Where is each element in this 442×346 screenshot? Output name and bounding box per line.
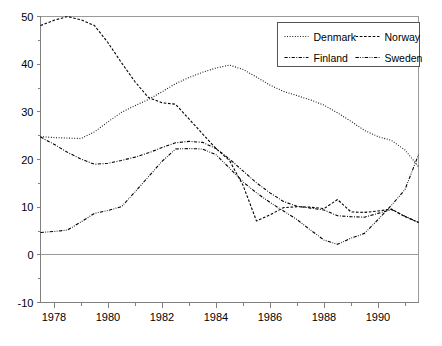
x-tick-label: 1984 [204, 311, 228, 323]
x-tick-label: 1990 [366, 311, 390, 323]
legend-label-norway: Norway [385, 31, 421, 43]
line-chart: -100102030405019781980198219841986198819… [0, 0, 442, 346]
x-tick-label: 1978 [42, 311, 66, 323]
series-line-sweden [41, 149, 419, 245]
series-line-finland [41, 137, 419, 222]
chart-canvas: -100102030405019781980198219841986198819… [0, 0, 442, 346]
x-tick-label: 1986 [258, 311, 282, 323]
legend-label-finland: Finland [314, 52, 349, 64]
y-tick-label: 10 [21, 201, 33, 213]
series-line-denmark [41, 65, 419, 167]
legend-label-denmark: Denmark [314, 31, 357, 43]
y-tick-label: 0 [27, 249, 33, 261]
y-tick-label: -10 [18, 297, 34, 309]
x-tick-label: 1982 [150, 311, 174, 323]
y-tick-label: 30 [21, 106, 33, 118]
y-tick-label: 50 [21, 11, 33, 23]
y-tick-label: 40 [21, 58, 33, 70]
y-tick-label: 20 [21, 154, 33, 166]
x-tick-label: 1980 [96, 311, 120, 323]
legend-label-sweden: Sweden [385, 52, 423, 64]
x-tick-label: 1988 [312, 311, 336, 323]
